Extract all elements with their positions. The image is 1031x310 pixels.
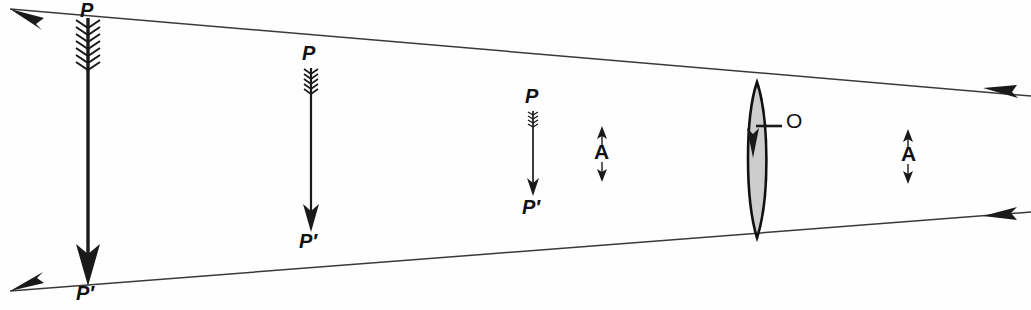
label-angle-a-right: A	[901, 143, 916, 164]
diagram-canvas	[0, 0, 1031, 310]
converging-lens	[748, 82, 766, 238]
arrow-large	[76, 18, 100, 286]
label-image-pprime-small: P′	[522, 197, 540, 217]
optics-ray-diagram-figure: P P′ P P′ P P′ A A O	[0, 0, 1031, 310]
label-object-p-medium: P	[302, 43, 315, 63]
label-object-p-large: P	[80, 0, 93, 20]
label-image-pprime-medium: P′	[299, 231, 317, 251]
ray-group	[10, 9, 1031, 291]
ray-lower-right-arrowhead	[983, 85, 1018, 98]
label-object-p-small: P	[525, 86, 538, 106]
ray-lower	[10, 212, 1031, 291]
label-image-pprime-large: P′	[76, 283, 94, 303]
ray-upper	[10, 9, 1031, 96]
arrow-medium	[303, 68, 319, 232]
label-optical-center-o: O	[786, 110, 802, 131]
arrow-small	[527, 111, 539, 196]
label-angle-a-left: A	[594, 141, 609, 162]
lens-body	[748, 82, 766, 238]
